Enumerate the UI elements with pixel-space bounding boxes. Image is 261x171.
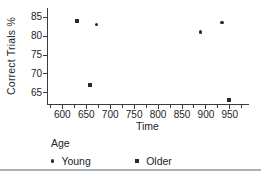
legend-items: YoungOlder bbox=[51, 155, 172, 167]
data-point-older bbox=[227, 98, 231, 102]
x-tick-label: 900 bbox=[193, 109, 219, 120]
legend-item-label: Older bbox=[146, 155, 172, 167]
data-point-young bbox=[220, 21, 223, 24]
data-point-older bbox=[75, 19, 79, 23]
y-axis-tick bbox=[43, 92, 47, 93]
circle-marker-icon bbox=[51, 159, 54, 162]
x-axis-minor-tick bbox=[122, 105, 123, 108]
x-tick-label: 700 bbox=[97, 109, 123, 120]
x-axis-title: Time bbox=[91, 120, 204, 132]
x-tick-label: 600 bbox=[49, 109, 75, 120]
legend-title: Age bbox=[51, 137, 172, 149]
y-axis-tick bbox=[43, 17, 47, 18]
y-tick-label: 70 bbox=[17, 68, 42, 79]
x-tick-label: 750 bbox=[121, 109, 147, 120]
y-tick-label: 85 bbox=[17, 11, 42, 22]
data-point-young bbox=[95, 23, 98, 26]
legend-item-label: Young bbox=[61, 155, 90, 167]
data-point-older bbox=[88, 83, 92, 87]
x-tick-label: 650 bbox=[73, 109, 99, 120]
y-axis-title: Correct Trials % bbox=[5, 17, 17, 95]
x-tick-label: 950 bbox=[217, 109, 243, 120]
bottom-divider-line bbox=[0, 169, 261, 171]
x-axis-minor-tick bbox=[217, 105, 218, 108]
x-axis-minor-tick bbox=[98, 105, 99, 108]
y-tick-label: 80 bbox=[17, 30, 42, 41]
y-axis-tick bbox=[43, 55, 47, 56]
legend-item-older: Older bbox=[135, 155, 172, 167]
x-axis-minor-tick bbox=[74, 105, 75, 108]
x-axis-minor-tick bbox=[241, 105, 242, 108]
plot-area: 6006507007508008509009506570758085 bbox=[47, 8, 249, 105]
square-marker-icon bbox=[135, 159, 139, 163]
y-tick-label: 65 bbox=[17, 87, 42, 98]
x-axis-minor-tick bbox=[50, 105, 51, 108]
x-tick-label: 850 bbox=[169, 109, 195, 120]
x-axis-minor-tick bbox=[170, 105, 171, 108]
x-tick-label: 800 bbox=[145, 109, 171, 120]
legend: Age YoungOlder bbox=[51, 137, 172, 167]
data-point-young bbox=[199, 30, 202, 33]
scatter-chart: Correct Trials % 60065070075080085090095… bbox=[0, 0, 261, 171]
x-axis-minor-tick bbox=[193, 105, 194, 108]
legend-item-young: Young bbox=[51, 155, 91, 167]
x-axis-minor-tick bbox=[146, 105, 147, 108]
y-axis-tick bbox=[43, 36, 47, 37]
y-tick-label: 75 bbox=[17, 49, 42, 60]
y-axis-tick bbox=[43, 73, 47, 74]
